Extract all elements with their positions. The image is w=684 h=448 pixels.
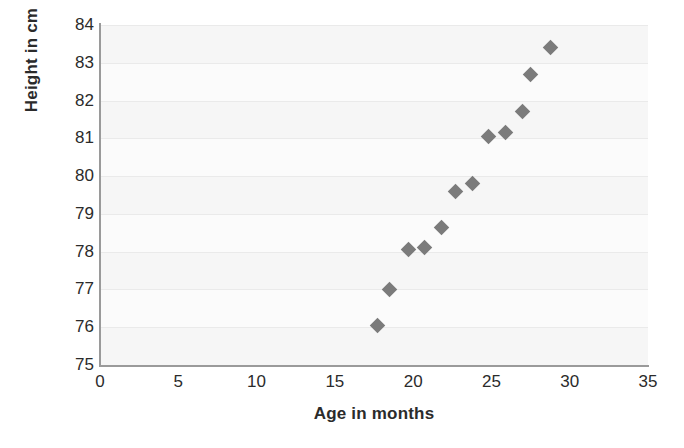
x-tick-label: 30	[548, 372, 592, 392]
gridline	[100, 176, 648, 177]
gridline	[100, 214, 648, 215]
x-tick-label: 10	[235, 372, 279, 392]
x-axis-line	[99, 365, 649, 367]
y-axis-title: Height in cm	[22, 0, 52, 160]
y-tick-label: 77	[58, 279, 94, 299]
x-tick-label: 35	[626, 372, 670, 392]
y-tick-label: 76	[58, 317, 94, 337]
y-tick-label: 82	[58, 91, 94, 111]
y-tick-label: 80	[58, 166, 94, 186]
y-axis-line	[99, 23, 101, 367]
plot-band	[100, 101, 648, 139]
plot-band	[100, 176, 648, 214]
data-point	[523, 66, 539, 82]
x-tick-label: 25	[469, 372, 513, 392]
plot-band	[100, 327, 648, 365]
x-axis-title: Age in months	[100, 404, 648, 424]
gridline	[100, 63, 648, 64]
x-tick-label: 20	[391, 372, 435, 392]
plot-band	[100, 25, 648, 63]
y-tick-label: 81	[58, 128, 94, 148]
x-tick-label: 5	[156, 372, 200, 392]
gridline	[100, 252, 648, 253]
gridline	[100, 25, 648, 26]
x-tick-label: 15	[313, 372, 357, 392]
y-axis-tick-labels: 75767778798081828384	[58, 25, 94, 365]
y-tick-label: 78	[58, 242, 94, 262]
y-tick-label: 84	[58, 15, 94, 35]
data-point	[434, 219, 450, 235]
y-tick-label: 79	[58, 204, 94, 224]
gridline	[100, 138, 648, 139]
gridline	[100, 289, 648, 290]
gridline	[100, 101, 648, 102]
y-tick-label: 83	[58, 53, 94, 73]
scatter-chart: Height in cm 75767778798081828384 051015…	[0, 0, 684, 448]
x-tick-label: 0	[78, 372, 122, 392]
plot-band	[100, 252, 648, 290]
plot-area	[100, 25, 648, 365]
x-axis-tick-labels: 05101520253035	[100, 372, 648, 398]
